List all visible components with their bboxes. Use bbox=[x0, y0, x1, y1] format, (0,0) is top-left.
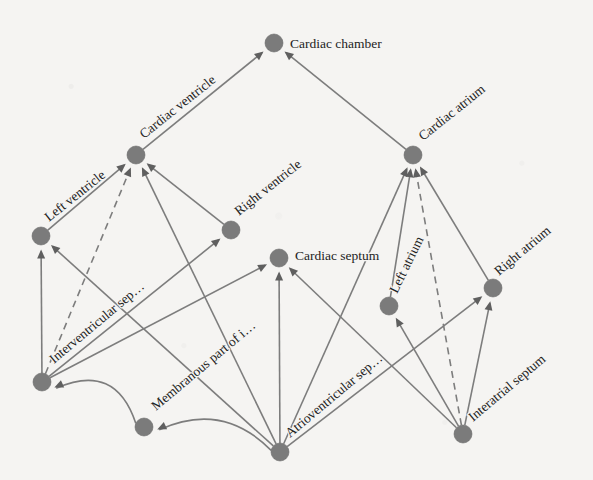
node-label-right_ventricle: Right ventricle bbox=[232, 156, 304, 218]
arrowhead-icon bbox=[53, 380, 64, 391]
node-label-left_atrium: Left atrium bbox=[386, 233, 426, 295]
node-interventricular_septum[interactable] bbox=[33, 373, 51, 391]
node-labels-layer: Cardiac chamberCardiac ventricleCardiac … bbox=[42, 36, 554, 440]
node-left_ventricle[interactable] bbox=[32, 227, 50, 245]
node-right_atrium[interactable] bbox=[484, 279, 502, 297]
arrowhead-icon bbox=[392, 316, 403, 328]
node-interatrial_septum[interactable] bbox=[454, 425, 472, 443]
edge-interventricular_septum-to-cardiac_septum bbox=[50, 265, 265, 378]
node-label-right_atrium: Right atrium bbox=[491, 222, 554, 278]
node-cardiac_septum[interactable] bbox=[270, 249, 288, 267]
node-membranous_part[interactable] bbox=[135, 418, 153, 436]
edge-atrioventricular_septum-to-cardiac_septum bbox=[279, 273, 280, 443]
edge-cardiac_atrium-to-cardiac_chamber bbox=[286, 53, 406, 150]
arrowhead-icon bbox=[275, 271, 283, 280]
node-left_atrium[interactable] bbox=[380, 297, 398, 315]
node-cardiac_chamber[interactable] bbox=[265, 34, 283, 52]
arrowhead-icon bbox=[485, 300, 495, 310]
edge-cardiac_ventricle-to-cardiac_chamber bbox=[143, 53, 262, 150]
node-cardiac_ventricle[interactable] bbox=[127, 146, 145, 164]
arrowhead-icon bbox=[37, 249, 45, 258]
node-label-cardiac_atrium: Cardiac atrium bbox=[416, 81, 489, 143]
node-atrioventricular_septum[interactable] bbox=[271, 443, 289, 461]
node-label-cardiac_chamber: Cardiac chamber bbox=[290, 36, 382, 51]
node-right_ventricle[interactable] bbox=[222, 221, 240, 239]
node-label-membranous_part: Membranous part of i… bbox=[148, 318, 258, 414]
arrowhead-icon bbox=[124, 166, 135, 177]
node-cardiac_atrium[interactable] bbox=[404, 146, 422, 164]
edge-interatrial_septum-to-cardiac_atrium bbox=[416, 170, 462, 425]
node-label-left_ventricle: Left ventricle bbox=[42, 167, 109, 224]
arrowhead-icon bbox=[138, 165, 149, 177]
edge-interventricular_septum-to-left_ventricle bbox=[41, 251, 42, 373]
diagram-canvas: Cardiac chamberCardiac ventricleCardiac … bbox=[0, 0, 593, 480]
graph-svg: Cardiac chamberCardiac ventricleCardiac … bbox=[0, 0, 593, 480]
node-label-cardiac_ventricle: Cardiac ventricle bbox=[137, 72, 219, 141]
edge-right_ventricle-to-cardiac_ventricle bbox=[148, 165, 224, 225]
node-label-atrioventricular_septum: Atrioventricular sep… bbox=[282, 350, 385, 440]
edge-right_atrium-to-cardiac_atrium bbox=[421, 168, 488, 280]
edge-interatrial_septum-to-left_atrium bbox=[397, 319, 459, 426]
edge-atrioventricular_septum-to-membranous_part bbox=[159, 419, 271, 450]
nodes-layer bbox=[32, 34, 502, 461]
arrowhead-icon bbox=[257, 261, 269, 272]
edges-layer bbox=[41, 53, 490, 451]
edge-interventricular_septum-to-right_ventricle bbox=[49, 240, 219, 377]
edge-membranous_part-to-interventricular_septum bbox=[56, 380, 136, 423]
node-label-cardiac_septum: Cardiac septum bbox=[295, 248, 380, 263]
arrowhead-icon bbox=[156, 422, 168, 433]
